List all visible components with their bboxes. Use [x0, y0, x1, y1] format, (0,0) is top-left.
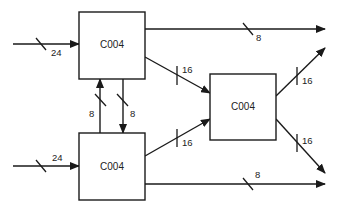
- bus-bl-to-tl: 8: [89, 79, 106, 133]
- bus-tl-to-bl: 8: [117, 79, 135, 133]
- block-label: C004: [100, 161, 124, 172]
- bus-in-top: 24: [13, 38, 79, 58]
- bus-out-bottom: 8: [145, 169, 325, 190]
- bus-width-label: 16: [302, 135, 313, 146]
- bus-r-out-down: 16: [276, 119, 325, 173]
- block-label: C004: [231, 101, 255, 112]
- block-bottom-left: C004: [79, 133, 145, 200]
- block-right: C004: [210, 74, 276, 140]
- bus-width-label: 8: [89, 108, 94, 119]
- bus-bl-to-r: 16: [145, 119, 210, 156]
- bus-width-label: 8: [255, 169, 260, 180]
- bus-width-label: 24: [52, 152, 63, 163]
- bus-r-out-up: 16: [276, 48, 325, 96]
- bus-width-label: 8: [256, 32, 261, 43]
- bus-width-label: 8: [130, 108, 135, 119]
- bus-width-label: 16: [302, 75, 313, 86]
- block-label: C004: [100, 39, 124, 50]
- bus-width-label: 16: [182, 64, 193, 75]
- bus-width-label: 24: [51, 47, 62, 58]
- bus-tl-to-r: 16: [145, 57, 210, 93]
- block-top-left: C004: [79, 12, 145, 79]
- bus-width-label: 16: [182, 137, 193, 148]
- bus-out-top: 8: [145, 23, 325, 43]
- bus-in-bottom: 24: [13, 152, 79, 172]
- block-diagram: 24 24 8 8 8 8 16 16: [0, 0, 340, 209]
